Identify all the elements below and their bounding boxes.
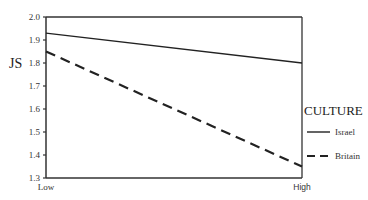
legend: CULTURE Israel Britain <box>304 103 363 161</box>
y-tick-label: 1.4 <box>29 150 41 160</box>
y-tick-label: 1.8 <box>29 58 41 68</box>
legend-label-britain: Britain <box>335 151 360 161</box>
y-axis-ticks: 2.01.91.81.71.61.51.41.3 <box>29 12 46 183</box>
y-tick-label: 1.9 <box>29 35 41 45</box>
x-axis-labels: Low High <box>38 182 311 192</box>
plot-frame <box>46 17 302 178</box>
series-line-britain <box>46 52 302 167</box>
y-axis-title: JS <box>9 56 22 71</box>
y-tick-label: 1.5 <box>29 127 41 137</box>
y-tick-label: 1.7 <box>29 81 41 91</box>
series-lines <box>46 33 302 166</box>
x-tick-label-high: High <box>293 182 311 192</box>
series-line-israel <box>46 33 302 63</box>
y-tick-label: 1.6 <box>29 104 41 114</box>
legend-title: CULTURE <box>304 103 363 118</box>
x-tick-label-low: Low <box>38 182 55 192</box>
legend-label-israel: Israel <box>335 127 355 137</box>
line-chart: 2.01.91.81.71.61.51.41.3 Low High JS CUL… <box>0 0 368 200</box>
y-tick-label: 2.0 <box>29 12 41 22</box>
